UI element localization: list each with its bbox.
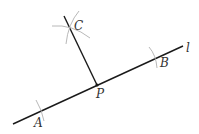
arc-mark-b <box>149 47 157 68</box>
label-line-l: l <box>186 41 190 55</box>
label-c: C <box>74 19 83 33</box>
label-a: A <box>33 116 43 130</box>
construction-diagram: C P B A l <box>0 0 199 134</box>
label-b: B <box>159 56 169 70</box>
label-p: P <box>95 87 105 101</box>
